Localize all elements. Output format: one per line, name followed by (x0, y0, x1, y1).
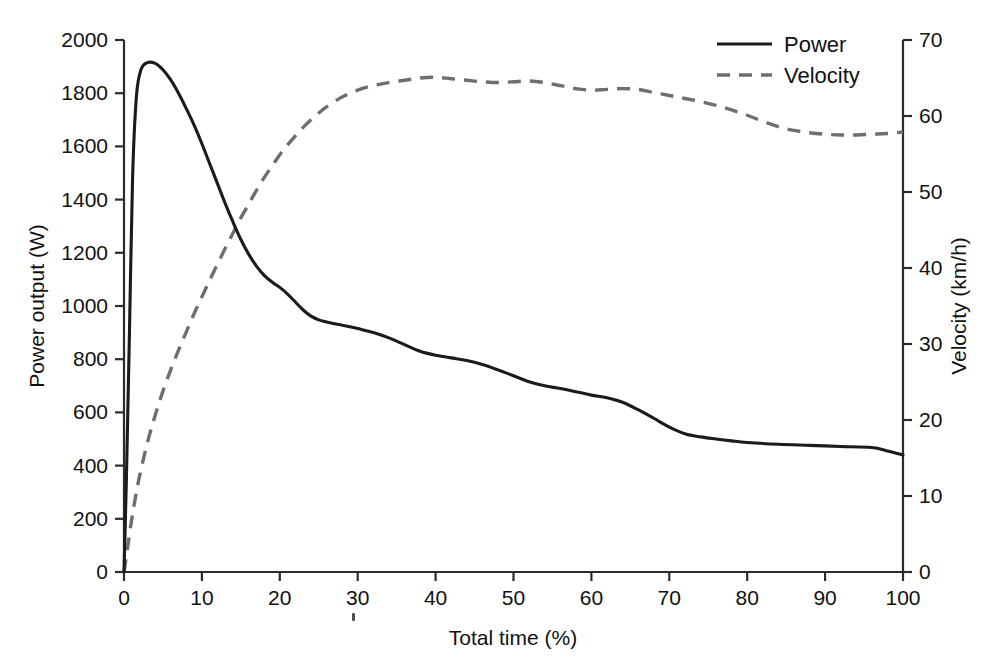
chart-figure: 0200400600800100012001400160018002000 01… (0, 0, 994, 661)
y-axis-right-ticks (903, 40, 912, 572)
x-axis-tick-label: 90 (813, 586, 836, 609)
x-axis-title: Total time (%) (449, 626, 577, 649)
x-axis-tick-label: 80 (736, 586, 759, 609)
y-axis-right-tick-label: 20 (919, 408, 942, 431)
y-axis-left-tick-label: 400 (73, 454, 108, 477)
legend-item-velocity: Velocity (717, 63, 860, 88)
y-axis-right-tick-label: 70 (919, 28, 942, 51)
y-axis-left-title: Power output (W) (25, 224, 48, 387)
y-axis-right-tick-label: 10 (919, 484, 942, 507)
legend: Power Velocity (717, 32, 860, 88)
x-axis-tick-label: 20 (268, 586, 291, 609)
legend-label-velocity: Velocity (784, 63, 860, 88)
x-axis-tick-label: 30 (346, 586, 369, 609)
y-axis-left-tick-label: 1800 (61, 81, 108, 104)
x-axis-tick-labels: 0102030405060708090100 (118, 586, 920, 609)
y-axis-right-tick-label: 60 (919, 104, 942, 127)
y-axis-left-tick-label: 1200 (61, 241, 108, 264)
y-axis-left-tick-label: 600 (73, 400, 108, 423)
y-axis-left-ticks (115, 40, 124, 572)
y-axis-left-tick-label: 1000 (61, 294, 108, 317)
x-axis-ticks (124, 572, 903, 581)
y-axis-right-tick-labels: 010203040506070 (919, 28, 942, 583)
x-axis-tick-label: 100 (885, 586, 920, 609)
x-axis-tick-label: 40 (424, 586, 447, 609)
series-line-power (124, 62, 903, 572)
x-axis-tick-label: 60 (580, 586, 603, 609)
y-axis-right-title: Velocity (km/h) (947, 237, 970, 375)
x-axis-tick-label: 70 (658, 586, 681, 609)
y-axis-left-tick-label: 1400 (61, 188, 108, 211)
y-axis-left-tick-label: 800 (73, 347, 108, 370)
legend-item-power: Power (717, 32, 846, 57)
y-axis-right-tick-label: 40 (919, 256, 942, 279)
y-axis-left-tick-label: 200 (73, 507, 108, 530)
x-axis-tick-label: 0 (118, 586, 130, 609)
y-axis-right-tick-label: 50 (919, 180, 942, 203)
y-axis-right-tick-label: 30 (919, 332, 942, 355)
y-axis-left-tick-labels: 0200400600800100012001400160018002000 (61, 28, 108, 583)
series-line-velocity (124, 77, 903, 572)
scan-artifact-speck (352, 613, 355, 621)
y-axis-left-tick-label: 2000 (61, 28, 108, 51)
y-axis-left-tick-label: 0 (96, 560, 108, 583)
x-axis-tick-label: 50 (502, 586, 525, 609)
y-axis-right-tick-label: 0 (919, 560, 931, 583)
y-axis-left-tick-label: 1600 (61, 134, 108, 157)
x-axis-tick-label: 10 (190, 586, 213, 609)
chart-canvas: 0200400600800100012001400160018002000 01… (0, 0, 994, 661)
legend-label-power: Power (784, 32, 846, 57)
